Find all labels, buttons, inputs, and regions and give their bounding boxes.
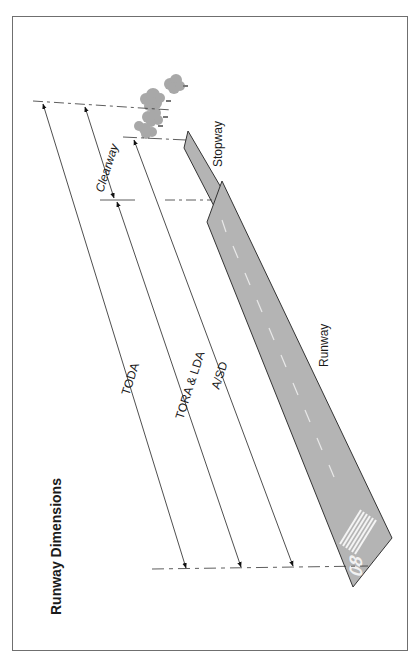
runway-dimensions-diagram: 08 TODA TORA & LDA A/SD Clearway Stopway… bbox=[0, 0, 419, 664]
tora-lda-label: TORA & LDA bbox=[173, 350, 208, 421]
toda-arrow bbox=[43, 104, 186, 568]
trees-icon bbox=[134, 74, 188, 139]
toda-label: TODA bbox=[119, 361, 143, 397]
clearway-label: Clearway bbox=[93, 141, 122, 194]
diagram-title: Runway Dimensions bbox=[48, 478, 64, 615]
stopway-label: Stopway bbox=[211, 121, 225, 167]
asd-label: A/SD bbox=[209, 360, 231, 391]
runway-label: Runway bbox=[317, 324, 331, 367]
